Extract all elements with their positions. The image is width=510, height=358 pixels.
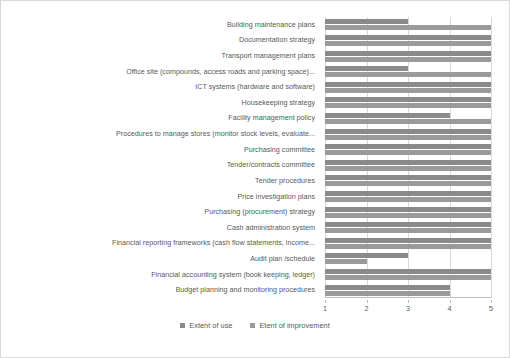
category-label: Tender/contracts committee — [227, 161, 315, 169]
legend-item[interactable]: Etent of improvement — [250, 321, 329, 330]
bar-2 — [325, 259, 367, 264]
bar-group — [325, 267, 491, 283]
bar-2 — [325, 166, 491, 171]
category-label: Cash administration system — [227, 224, 315, 232]
bar-2 — [325, 72, 491, 77]
bar-1 — [325, 97, 491, 102]
bar-2 — [325, 150, 491, 155]
tick-mark-2 — [367, 300, 368, 303]
bar-1 — [325, 82, 491, 87]
value-axis-tick-label: 1 — [323, 304, 327, 314]
gridline-5 — [491, 17, 492, 298]
category-label: Building maintenance plans — [227, 21, 315, 29]
bar-2 — [325, 244, 491, 249]
category-label: Price investigation plans — [237, 193, 315, 201]
bar-1 — [325, 238, 491, 243]
bar-2 — [325, 25, 491, 30]
bar-1 — [325, 129, 491, 134]
bar-group — [325, 111, 491, 127]
category-label: Budget planning and monitoring procedure… — [176, 286, 315, 294]
category-label: Housekeeping strategy — [241, 99, 315, 107]
bar-2 — [325, 213, 491, 218]
bar-group — [325, 173, 491, 189]
bar-1 — [325, 35, 491, 40]
bar-1 — [325, 207, 491, 212]
bar-2 — [325, 197, 491, 202]
bar-rows — [325, 17, 491, 298]
bar-group — [325, 79, 491, 95]
bar-1 — [325, 253, 408, 258]
bar-group — [325, 64, 491, 80]
chart-legend: Extent of useEtent of improvement — [1, 321, 509, 330]
bar-group — [325, 142, 491, 158]
bar-1 — [325, 191, 491, 196]
bar-1 — [325, 269, 491, 274]
category-label: Financial accounting system (book keepin… — [151, 271, 315, 279]
bar-2 — [325, 291, 450, 296]
category-label: Audit plan /schedule — [250, 255, 315, 263]
value-axis-tick-label: 3 — [406, 304, 410, 314]
bar-2 — [325, 181, 491, 186]
legend-swatch-icon — [180, 323, 185, 328]
bar-2 — [325, 88, 491, 93]
value-axis-tick-label: 4 — [448, 304, 452, 314]
bar-group — [325, 126, 491, 142]
bar-group — [325, 236, 491, 252]
tick-mark-4 — [450, 300, 451, 303]
bar-2 — [325, 41, 491, 46]
bar-group — [325, 17, 491, 33]
category-axis-labels: Building maintenance plansDocumentation … — [3, 17, 321, 298]
category-label: Documentation strategy — [239, 36, 315, 44]
bar-1 — [325, 160, 491, 165]
bar-group — [325, 158, 491, 174]
bar-2 — [325, 228, 491, 233]
bar-group — [325, 282, 491, 298]
legend-label: Etent of improvement — [259, 321, 329, 330]
bar-1 — [325, 144, 491, 149]
tick-mark-1 — [325, 300, 326, 303]
category-label: Transport management plans — [221, 52, 315, 60]
bar-group — [325, 95, 491, 111]
bar-group — [325, 251, 491, 267]
bar-1 — [325, 175, 491, 180]
bar-1 — [325, 19, 408, 24]
bar-1 — [325, 113, 450, 118]
category-label: ICT systems (hardware and software) — [195, 83, 315, 91]
bar-2 — [325, 275, 491, 280]
bar-1 — [325, 222, 491, 227]
category-label: Tender procedures — [255, 177, 315, 185]
bar-2 — [325, 135, 491, 140]
bar-1 — [325, 51, 491, 56]
legend-item[interactable]: Extent of use — [180, 321, 232, 330]
legend-swatch-icon — [250, 323, 255, 328]
plot-area — [325, 17, 491, 298]
category-label: Facility management policy — [228, 114, 315, 122]
category-label: Financial reporting frameworks (cash flo… — [112, 239, 315, 247]
legend-label: Extent of use — [189, 321, 232, 330]
bar-2 — [325, 57, 491, 62]
bar-2 — [325, 103, 491, 108]
bar-group — [325, 204, 491, 220]
tick-mark-3 — [408, 300, 409, 303]
category-label: Purchasing (procurement) strategy — [204, 208, 315, 216]
tick-mark-5 — [491, 300, 492, 303]
bar-1 — [325, 66, 408, 71]
category-label: Procedures to manage stores (monitor sto… — [116, 130, 315, 138]
bar-2 — [325, 119, 491, 124]
chart-container: Building maintenance plansDocumentation … — [0, 0, 510, 358]
value-axis-tick-label: 5 — [489, 304, 493, 314]
category-label: Purchasing committee — [244, 146, 315, 154]
bar-group — [325, 220, 491, 236]
bar-1 — [325, 285, 450, 290]
bar-group — [325, 189, 491, 205]
bar-group — [325, 33, 491, 49]
value-axis-tick-label: 2 — [365, 304, 369, 314]
category-label: Office site (compounds, access roads and… — [126, 68, 315, 76]
value-axis-ticks: 12345 — [325, 300, 491, 314]
bar-group — [325, 48, 491, 64]
